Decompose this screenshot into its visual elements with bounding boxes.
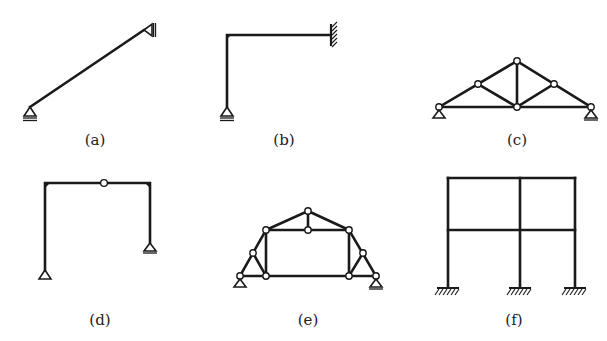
panel-f	[435, 178, 586, 295]
panel-label-f: (f)	[505, 311, 522, 329]
pin-support-icon	[39, 270, 51, 279]
pin-support-icon	[234, 279, 246, 287]
panel-e	[234, 208, 383, 289]
pin-wall-support-icon	[144, 23, 156, 37]
structural-diagrams	[0, 0, 607, 341]
panel-label-c: (c)	[507, 131, 527, 149]
truss-joints	[436, 58, 594, 110]
pin-support-icon	[433, 110, 445, 118]
crown-hinge	[101, 180, 108, 187]
panel-b	[220, 22, 337, 121]
panel-label-b: (b)	[273, 131, 294, 149]
roller-support-icon	[143, 243, 157, 253]
frame-members	[448, 178, 575, 287]
truss-members	[439, 61, 591, 107]
panel-c	[433, 58, 598, 120]
fixed-support-icon	[507, 288, 531, 295]
panel-label-d: (d)	[89, 311, 110, 329]
fixed-support-icon	[562, 288, 586, 295]
panel-label-a: (a)	[85, 131, 106, 149]
fixed-support-icon	[331, 22, 337, 47]
panel-d	[39, 180, 157, 279]
pin-roller-support-icon	[23, 107, 37, 121]
roller-support-icon	[369, 279, 383, 289]
pin-roller-support-icon	[220, 107, 234, 121]
truss-members	[240, 211, 376, 276]
fixed-support-icon	[435, 288, 459, 295]
panel-label-e: (e)	[298, 311, 319, 329]
rigid-corner	[144, 182, 151, 189]
inclined-member	[30, 30, 144, 107]
l-frame-members	[227, 35, 330, 107]
roller-support-icon	[584, 110, 598, 120]
portal-frame-members	[45, 183, 150, 270]
panel-a	[23, 23, 156, 121]
